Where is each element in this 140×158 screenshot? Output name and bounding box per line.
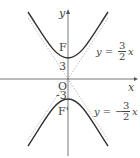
x-axis-arrow	[134, 77, 138, 81]
fraction: 3 2	[118, 41, 126, 62]
fraction: 3 2	[122, 101, 130, 122]
equation-prefix: y =	[96, 47, 113, 57]
vertex-lower-label: -3	[56, 90, 67, 101]
focus-lower-label: F'	[58, 106, 69, 117]
focus-upper-label: F	[59, 42, 67, 53]
y-axis-arrow	[66, 9, 70, 14]
vertex-upper-label: 3	[59, 61, 66, 72]
hyperbola-diagram	[0, 0, 140, 158]
equation-variable: x	[132, 107, 138, 117]
x-axis-label: x	[128, 82, 134, 93]
asymptote-equation-negative: y = − 3 2 x	[94, 100, 140, 124]
asymptote-equation-positive: y = 3 2 x	[96, 40, 140, 64]
equation-variable: x	[128, 47, 134, 57]
y-axis-label: y	[59, 8, 65, 19]
equation-prefix: y =	[94, 107, 111, 117]
denominator: 2	[122, 112, 130, 122]
denominator: 2	[118, 52, 126, 62]
